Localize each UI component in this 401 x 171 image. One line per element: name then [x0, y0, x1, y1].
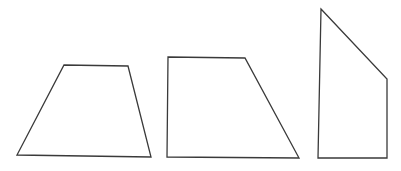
shape-quadrilateral-3 — [318, 9, 387, 158]
shape-trapezoid-2 — [167, 57, 299, 158]
shape-trapezoid-1 — [17, 65, 151, 157]
shapes-diagram — [0, 0, 401, 171]
figure-canvas — [0, 0, 401, 171]
